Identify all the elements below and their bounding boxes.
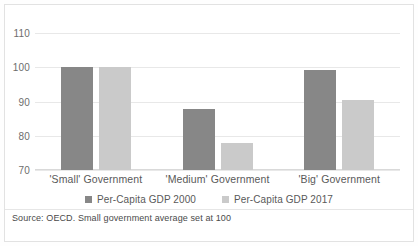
bar-group xyxy=(278,33,400,170)
source-note: Source: OECD. Small government average s… xyxy=(12,213,231,223)
plot-area xyxy=(35,33,400,170)
legend-label: Per-Capita GDP 2017 xyxy=(234,194,333,205)
legend-item[interactable]: Per-Capita GDP 2000 xyxy=(85,194,196,205)
legend-label: Per-Capita GDP 2000 xyxy=(97,194,196,205)
y-axis-tick-label: 70 xyxy=(18,165,30,176)
chart-figure: 110100908070 'Small' Government'Medium' … xyxy=(0,0,418,246)
chart-legend: Per-Capita GDP 2000Per-Capita GDP 2017 xyxy=(0,194,418,205)
x-axis-category-label: 'Big' Government xyxy=(278,173,400,185)
bar[interactable] xyxy=(99,67,131,170)
bar-groups xyxy=(35,33,400,170)
y-axis-tick-label: 100 xyxy=(13,62,30,73)
y-axis-tick-label: 110 xyxy=(13,28,30,39)
legend-swatch-icon xyxy=(85,196,92,203)
bar[interactable] xyxy=(183,109,215,170)
bar-group xyxy=(35,33,157,170)
x-axis-category-label: 'Medium' Government xyxy=(157,173,279,185)
y-axis-tick-label: 90 xyxy=(18,96,30,107)
legend-item[interactable]: Per-Capita GDP 2017 xyxy=(222,194,333,205)
bar[interactable] xyxy=(61,67,93,170)
y-axis-tick-label: 80 xyxy=(18,130,30,141)
bar[interactable] xyxy=(221,143,253,170)
x-axis-category-label: 'Small' Government xyxy=(35,173,157,185)
source-separator xyxy=(5,209,413,210)
bar[interactable] xyxy=(304,70,336,170)
bar[interactable] xyxy=(342,100,374,170)
gridline xyxy=(35,170,400,171)
bar-group xyxy=(157,33,279,170)
x-axis-category-labels: 'Small' Government'Medium' Government'Bi… xyxy=(35,173,400,185)
y-axis-tick-labels: 110100908070 xyxy=(0,33,30,170)
legend-swatch-icon xyxy=(222,196,229,203)
